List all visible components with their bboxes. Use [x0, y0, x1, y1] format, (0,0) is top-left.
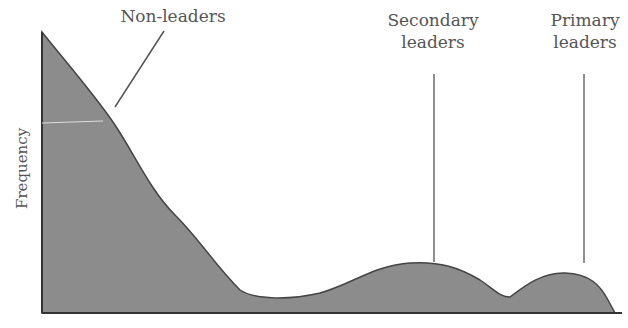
- non-leaders-pointer: [115, 31, 164, 107]
- primary-label-line2: leaders: [535, 31, 628, 53]
- primary-label-line1: Primary: [535, 9, 628, 31]
- secondary-leaders-label: Secondary leaders: [378, 9, 488, 53]
- distribution-area: [42, 32, 615, 313]
- distribution-curve: [0, 0, 628, 328]
- non-leaders-label: Non-leaders: [118, 5, 228, 27]
- secondary-label-line1: Secondary: [378, 9, 488, 31]
- primary-leaders-label: Primary leaders: [535, 9, 628, 53]
- secondary-label-line2: leaders: [378, 31, 488, 53]
- frequency-distribution-diagram: Non-leaders Secondary leaders Primary le…: [0, 0, 628, 328]
- y-axis-label: Frequency: [13, 129, 31, 209]
